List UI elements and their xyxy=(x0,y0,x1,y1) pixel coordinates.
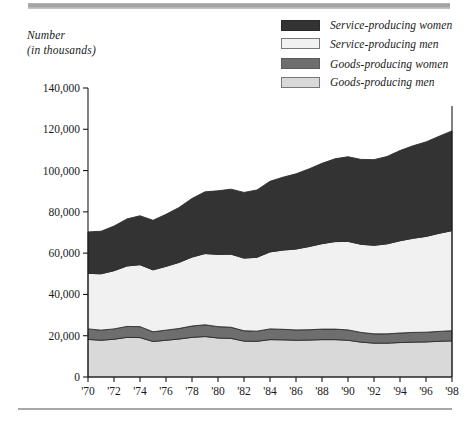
y-axis-tick-label: 120,000 xyxy=(18,123,80,135)
x-axis-tick-label: '70 xyxy=(81,385,95,397)
y-axis-tick-label: 40,000 xyxy=(18,288,80,300)
x-axis-tick-label: '76 xyxy=(159,385,173,397)
y-axis-tick-label: 140,000 xyxy=(18,82,80,94)
x-axis-tick-label: '86 xyxy=(289,385,303,397)
x-axis-tick-label: '82 xyxy=(237,385,251,397)
y-axis-tick-label: 0 xyxy=(18,371,80,383)
y-axis-tick-label: 80,000 xyxy=(18,206,80,218)
x-axis-tick-label: '98 xyxy=(445,385,459,397)
x-axis-tick-label: '84 xyxy=(263,385,277,397)
x-axis-tick-label: '80 xyxy=(211,385,225,397)
y-axis-tick-label: 20,000 xyxy=(18,330,80,342)
x-axis-tick-label: '92 xyxy=(367,385,381,397)
x-axis-tick-label: '72 xyxy=(107,385,121,397)
x-axis-tick-label: '96 xyxy=(419,385,433,397)
y-axis-tick-label: 60,000 xyxy=(18,247,80,259)
x-axis-tick-label: '94 xyxy=(393,385,407,397)
x-axis-tick-label: '78 xyxy=(185,385,199,397)
x-axis-tick-label: '88 xyxy=(315,385,329,397)
y-axis-tick-label: 100,000 xyxy=(18,165,80,177)
x-axis-tick-label: '90 xyxy=(341,385,355,397)
x-axis-tick-label: '74 xyxy=(133,385,147,397)
